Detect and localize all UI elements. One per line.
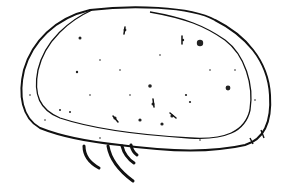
illustration: ostracod carapace line drawing <box>0 0 288 195</box>
stipple-texture <box>29 29 256 141</box>
posterior-spines <box>250 130 264 144</box>
outer-valve-outline <box>21 7 270 150</box>
ostracod-drawing <box>0 0 288 195</box>
inner-valve-outline <box>36 10 250 138</box>
appendages <box>84 145 137 181</box>
setae-marks <box>113 27 182 122</box>
